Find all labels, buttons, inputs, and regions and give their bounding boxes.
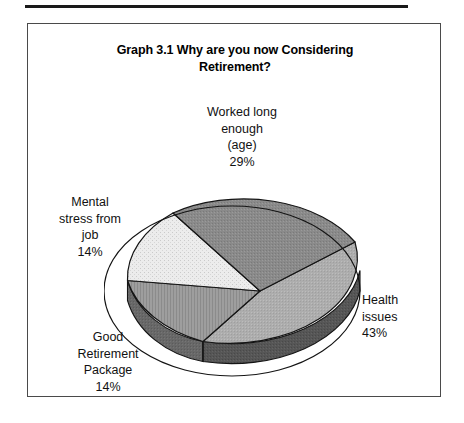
pie-label-worked-long-enough: Worked long enough (age) 29% (168, 104, 316, 170)
chart-frame: Graph 3.1 Why are you now ConsideringRet… (27, 23, 441, 397)
page-canvas: Graph 3.1 Why are you now ConsideringRet… (0, 0, 464, 423)
pie-chart-3d (104, 172, 364, 382)
page-title: Graph 3.1 Why are you now ConsideringRet… (28, 42, 442, 76)
top-horizontal-rule (25, 5, 408, 8)
pie-label-health-issues: Health issues 43% (362, 292, 438, 342)
chart-title-line-2: Retirement? (199, 60, 271, 74)
chart-title-line-1: Graph 3.1 Why are you now Considering (117, 43, 354, 57)
